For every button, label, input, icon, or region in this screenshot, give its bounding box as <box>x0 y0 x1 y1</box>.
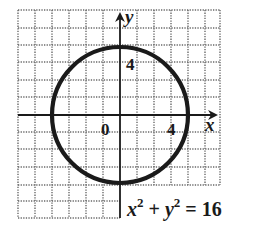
eq-x: x <box>126 198 137 220</box>
equation-label: x2 + y2 = 16 <box>126 195 222 221</box>
circle-graph: y x 4 0 4 x2 + y2 = 16 <box>0 0 253 225</box>
y-axis-label: y <box>123 6 134 27</box>
eq-plus: + <box>144 198 165 220</box>
origin-label: 0 <box>101 120 110 139</box>
x-tick-label-4: 4 <box>167 120 176 139</box>
y-tick-label-4: 4 <box>126 55 135 74</box>
x-axis-label: x <box>204 114 215 135</box>
eq-y: y <box>163 198 174 221</box>
eq-rhs: = 16 <box>180 198 221 220</box>
